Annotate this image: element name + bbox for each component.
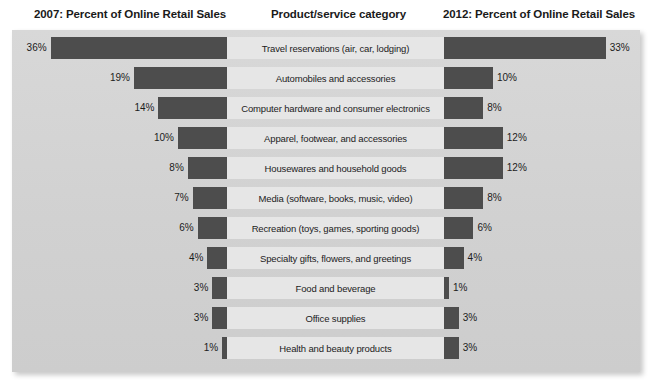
bar-right-value: 3%: [463, 337, 477, 359]
category-label-strip: Office supplies: [227, 307, 444, 329]
bar-left: [158, 97, 227, 119]
category-label: Computer hardware and consumer electroni…: [241, 103, 430, 114]
bar-left: [212, 307, 227, 329]
category-label: Health and beauty products: [279, 343, 391, 354]
chart-rows: 36%Travel reservations (air, car, lodgin…: [12, 33, 640, 363]
category-label-strip: Media (software, books, music, video): [227, 187, 444, 209]
bar-left: [178, 127, 227, 149]
bar-left-value: 4%: [189, 247, 203, 269]
chart-row: 10%Apparel, footwear, and accessories12%: [12, 123, 640, 153]
category-label: Food and beverage: [296, 283, 376, 294]
category-label: Apparel, footwear, and accessories: [264, 133, 407, 144]
chart-row: 3%Food and beverage1%: [12, 273, 640, 303]
category-label: Office supplies: [306, 313, 366, 324]
category-label-strip: Food and beverage: [227, 277, 444, 299]
bar-right-value: 12%: [507, 157, 527, 179]
bar-left: [212, 277, 227, 299]
bar-left: [188, 157, 227, 179]
category-label-strip: Recreation (toys, games, sporting goods): [227, 217, 444, 239]
header-right-series-title: 2012: Percent of Online Retail Sales: [443, 8, 635, 20]
bar-right-value: 10%: [497, 67, 517, 89]
category-label-strip: Housewares and household goods: [227, 157, 444, 179]
category-label-strip: Travel reservations (air, car, lodging): [227, 37, 444, 59]
bar-right: [444, 277, 449, 299]
category-label-strip: Automobiles and accessories: [227, 67, 444, 89]
category-label-strip: Specialty gifts, flowers, and greetings: [227, 247, 444, 269]
bar-right: [444, 217, 473, 239]
chart-row: 6%Recreation (toys, games, sporting good…: [12, 213, 640, 243]
category-label: Travel reservations (air, car, lodging): [262, 43, 409, 54]
bar-left: [134, 67, 227, 89]
category-label: Automobiles and accessories: [276, 73, 396, 84]
category-label: Recreation (toys, games, sporting goods): [252, 223, 420, 234]
bar-right: [444, 307, 459, 329]
header-left-series-title: 2007: Percent of Online Retail Sales: [34, 8, 226, 20]
bar-right: [444, 37, 606, 59]
category-label-strip: Apparel, footwear, and accessories: [227, 127, 444, 149]
bar-left-value: 1%: [204, 337, 218, 359]
bar-right-value: 8%: [487, 187, 501, 209]
category-label-strip: Health and beauty products: [227, 337, 444, 359]
bar-left-value: 3%: [194, 307, 208, 329]
bar-right-value: 6%: [477, 217, 491, 239]
bar-left-value: 36%: [27, 37, 47, 59]
bar-right: [444, 127, 503, 149]
bar-left: [193, 187, 227, 209]
chart-row: 4%Specialty gifts, flowers, and greeting…: [12, 243, 640, 273]
bar-left: [207, 247, 227, 269]
chart-row: 36%Travel reservations (air, car, lodgin…: [12, 33, 640, 63]
category-label: Media (software, books, music, video): [259, 193, 413, 204]
bar-left-value: 7%: [174, 187, 188, 209]
chart-row: 1%Health and beauty products3%: [12, 333, 640, 363]
bar-right-value: 33%: [610, 37, 630, 59]
bar-right: [444, 247, 464, 269]
category-label: Specialty gifts, flowers, and greetings: [260, 253, 411, 264]
bar-left-value: 3%: [194, 277, 208, 299]
chart-panel: 36%Travel reservations (air, car, lodgin…: [12, 30, 640, 372]
chart-row: 14%Computer hardware and consumer electr…: [12, 93, 640, 123]
bar-right: [444, 157, 503, 179]
chart-row: 8%Housewares and household goods12%: [12, 153, 640, 183]
bar-left-value: 6%: [179, 217, 193, 239]
bar-right-value: 3%: [463, 307, 477, 329]
bar-left: [198, 217, 227, 239]
bar-right: [444, 67, 493, 89]
bar-right-value: 4%: [468, 247, 482, 269]
bar-left-value: 14%: [134, 97, 154, 119]
category-label-strip: Computer hardware and consumer electroni…: [227, 97, 444, 119]
chart-row: 3%Office supplies3%: [12, 303, 640, 333]
bar-right: [444, 337, 459, 359]
bar-left-value: 10%: [154, 127, 174, 149]
tornado-chart: 2007: Percent of Online Retail Sales Pro…: [0, 0, 655, 384]
chart-header: 2007: Percent of Online Retail Sales Pro…: [0, 8, 655, 28]
bar-right: [444, 97, 483, 119]
bar-left: [51, 37, 227, 59]
category-label: Housewares and household goods: [265, 163, 407, 174]
bar-right-value: 8%: [487, 97, 501, 119]
header-category-title: Product/service category: [271, 8, 406, 20]
chart-row: 19%Automobiles and accessories10%: [12, 63, 640, 93]
bar-right-value: 12%: [507, 127, 527, 149]
bar-right: [444, 187, 483, 209]
bar-left-value: 8%: [169, 157, 183, 179]
chart-row: 7%Media (software, books, music, video)8…: [12, 183, 640, 213]
bar-left-value: 19%: [110, 67, 130, 89]
bar-right-value: 1%: [453, 277, 467, 299]
